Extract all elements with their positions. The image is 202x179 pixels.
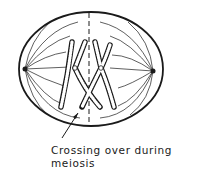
chromosome-pair [61, 42, 114, 107]
centrosome-left [23, 67, 28, 72]
spindle-fibers-right [100, 22, 153, 118]
caption-line-1: Crossing over during [51, 144, 172, 157]
cell-membrane [19, 12, 163, 126]
centrosome-right [151, 69, 156, 74]
caption-line-2: meiosis [51, 157, 172, 170]
caption: Crossing over during meiosis [51, 144, 172, 170]
